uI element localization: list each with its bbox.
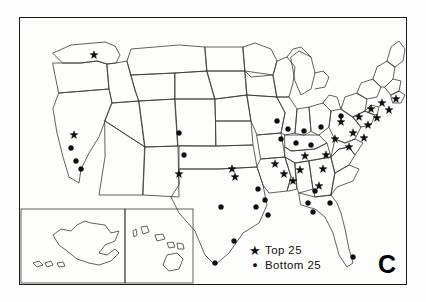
- dot-marker: [266, 213, 271, 218]
- hawaii-inset: [125, 209, 193, 283]
- star-marker: [360, 134, 368, 142]
- star-marker: [385, 106, 393, 114]
- legend-item-bottom25: ● Bottom 25: [248, 258, 358, 272]
- star-marker: [90, 51, 98, 59]
- star-marker: [231, 173, 239, 181]
- star-marker: [315, 182, 323, 190]
- dot-marker: [306, 201, 311, 206]
- star-marker: [364, 121, 372, 129]
- star-marker: [271, 160, 279, 168]
- star-marker: [296, 166, 304, 174]
- dot-marker: [302, 129, 307, 134]
- dot-marker: [313, 189, 318, 194]
- star-marker: [301, 152, 309, 160]
- alaska-inset: [21, 209, 125, 283]
- star-marker: [378, 99, 386, 107]
- dot-marker: [294, 141, 299, 146]
- legend: ★ Top 25 ● Bottom 25: [248, 243, 358, 273]
- star-marker: [319, 165, 327, 173]
- dot-icon: ●: [248, 261, 262, 270]
- star-marker: [345, 143, 353, 151]
- star-marker: [70, 131, 78, 139]
- legend-item-top25: ★ Top 25: [248, 243, 358, 257]
- dot-marker: [275, 119, 280, 124]
- dot-marker: [219, 205, 224, 210]
- dot-marker: [74, 159, 79, 164]
- star-marker: [280, 170, 288, 178]
- dot-marker: [254, 205, 259, 210]
- dot-marker: [328, 201, 333, 206]
- dot-marker: [256, 187, 261, 192]
- legend-label-top25: Top 25: [265, 244, 302, 256]
- panel-label: C: [378, 252, 396, 277]
- star-marker: [331, 135, 339, 143]
- legend-label-bottom25: Bottom 25: [265, 259, 321, 271]
- state-outlines: [53, 41, 405, 267]
- dot-marker: [286, 127, 291, 132]
- star-marker: [355, 113, 363, 121]
- dot-marker: [79, 167, 84, 172]
- star-marker: [228, 165, 236, 173]
- dot-marker: [279, 137, 284, 142]
- dot-marker: [311, 210, 316, 215]
- dot-marker: [213, 261, 218, 266]
- dot-marker: [339, 114, 344, 119]
- dot-marker: [69, 146, 74, 151]
- star-marker: [337, 118, 345, 126]
- dot-marker: [309, 143, 314, 148]
- dot-marker: [232, 239, 237, 244]
- star-marker: [392, 95, 400, 103]
- dot-marker: [177, 131, 182, 136]
- dot-marker: [319, 125, 324, 130]
- dot-marker: [182, 153, 187, 158]
- figure-panel: ★ Top 25 ● Bottom 25 C: [0, 0, 426, 302]
- star-marker: [349, 129, 357, 137]
- dot-marker: [263, 198, 268, 203]
- star-icon: ★: [248, 244, 262, 257]
